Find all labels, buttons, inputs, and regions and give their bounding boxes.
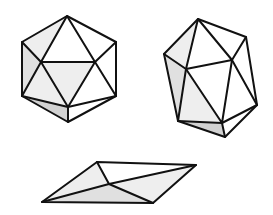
figure-canvas [0,0,273,215]
icosahedron-tilted-view [164,19,257,137]
icosahedron-front-view [22,16,116,122]
polyhedra-diagram [0,0,273,215]
icosahedron-flattened-view [42,162,196,203]
